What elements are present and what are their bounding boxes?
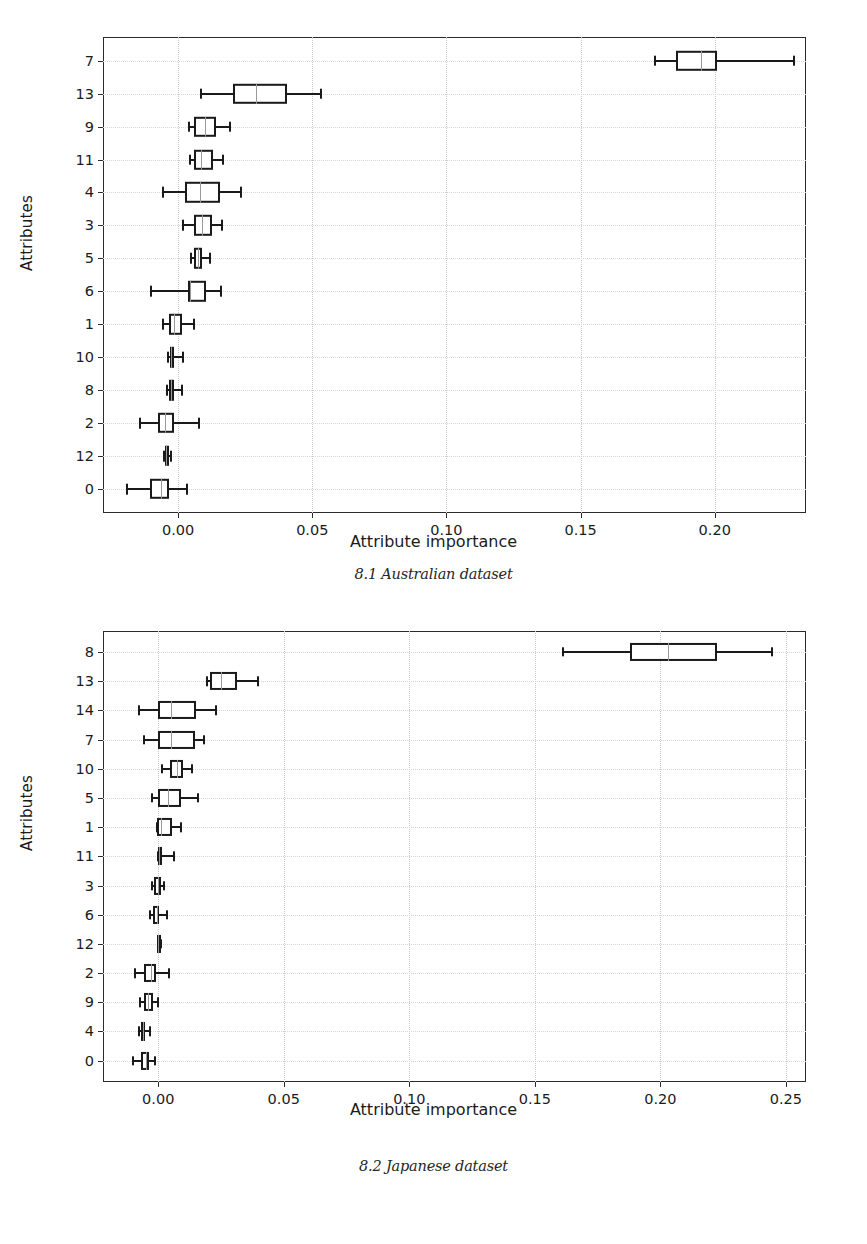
y-axis-tick	[98, 769, 103, 770]
y-axis-tick-label: 7	[85, 53, 94, 69]
whisker-low	[562, 651, 630, 653]
whisker-cap-low	[139, 418, 141, 429]
y-axis-tick-label: 2	[85, 965, 94, 981]
whisker-high	[174, 422, 198, 424]
median-line	[166, 446, 167, 466]
gridline-horizontal	[103, 1031, 806, 1032]
median-line	[171, 701, 172, 719]
whisker-high	[206, 290, 219, 292]
median-line	[668, 643, 669, 661]
whisker-low	[200, 93, 234, 95]
whisker-cap-high	[197, 793, 199, 802]
whisker-cap-high	[203, 735, 205, 744]
y-axis-tick-label: 5	[85, 250, 94, 266]
median-line	[158, 876, 159, 894]
y-axis-tick-label: 13	[76, 673, 94, 689]
figure-caption: 8.1 Australian dataset	[0, 566, 867, 582]
y-axis-tick	[98, 973, 103, 974]
gridline-horizontal	[103, 456, 806, 457]
median-line	[148, 993, 149, 1011]
median-line	[190, 281, 191, 301]
gridline-vertical	[178, 37, 179, 513]
median-line	[174, 314, 175, 334]
whisker-low	[143, 739, 158, 741]
whisker-cap-high	[240, 187, 242, 198]
y-axis-tick	[98, 160, 103, 161]
whisker-high	[169, 488, 186, 490]
y-axis-tick	[98, 886, 103, 887]
y-axis-tick	[98, 681, 103, 682]
y-axis-tick	[98, 61, 103, 62]
box	[158, 413, 174, 433]
median-line	[143, 1022, 144, 1040]
box	[185, 182, 220, 202]
y-axis-tick-label: 4	[85, 1023, 94, 1039]
whisker-cap-high	[173, 852, 175, 861]
y-axis-tick	[98, 827, 103, 828]
gridline-horizontal	[103, 973, 806, 974]
whisker-cap-low	[189, 154, 191, 165]
whisker-cap-high	[191, 764, 193, 773]
y-axis-tick	[98, 489, 103, 490]
gridline-vertical	[446, 37, 447, 513]
whisker-cap-low	[167, 352, 169, 363]
median-line	[171, 347, 172, 367]
whisker-high	[287, 93, 321, 95]
y-axis-tick	[98, 1002, 103, 1003]
y-axis-tick-label: 4	[85, 184, 94, 200]
x-axis-label: Attribute importance	[0, 1100, 867, 1119]
median-line	[168, 789, 169, 807]
axes-frame	[103, 37, 806, 513]
y-axis-tick-label: 9	[85, 119, 94, 135]
y-axis-tick	[98, 127, 103, 128]
y-axis-tick-label: 11	[76, 848, 94, 864]
whisker-cap-high	[257, 677, 259, 686]
whisker-cap-high	[168, 968, 170, 977]
y-axis-tick-label: 9	[85, 994, 94, 1010]
whisker-cap-low	[162, 319, 164, 330]
gridline-horizontal	[103, 390, 806, 391]
median-line	[171, 731, 172, 749]
whisker-cap-high	[180, 822, 182, 831]
whisker-high	[174, 389, 181, 391]
x-axis-tick	[581, 513, 582, 518]
figure-page: Attributes 0.000.050.100.150.20713911435…	[0, 0, 867, 1244]
box	[158, 701, 196, 719]
x-axis-tick	[312, 513, 313, 518]
whisker-high	[717, 651, 771, 653]
whisker-cap-high	[221, 220, 223, 231]
y-axis-tick-label: 8	[85, 382, 94, 398]
y-axis-tick-label: 10	[76, 349, 94, 365]
x-axis-tick	[446, 513, 447, 518]
median-line	[157, 906, 158, 924]
whisker-cap-high	[181, 385, 183, 396]
whisker-cap-low	[143, 735, 145, 744]
box	[150, 479, 169, 499]
box	[630, 643, 717, 661]
y-axis-tick	[98, 856, 103, 857]
whisker-cap-high	[209, 253, 211, 264]
median-line	[161, 479, 162, 499]
y-axis-tick	[98, 324, 103, 325]
box	[158, 789, 181, 807]
y-axis-tick-label: 3	[85, 878, 94, 894]
whisker-low	[654, 60, 675, 62]
y-axis-tick	[98, 258, 103, 259]
gridline-horizontal	[103, 827, 806, 828]
whisker-cap-high	[229, 121, 231, 132]
median-line	[171, 380, 172, 400]
whisker-cap-high	[215, 706, 217, 715]
whisker-cap-high	[198, 418, 200, 429]
whisker-high	[162, 855, 173, 857]
y-axis-tick	[98, 1061, 103, 1062]
gridline-horizontal	[103, 856, 806, 857]
gridline-horizontal	[103, 740, 806, 741]
whisker-high	[237, 680, 257, 682]
y-axis-tick-label: 12	[76, 936, 94, 952]
whisker-cap-high	[157, 998, 159, 1007]
whisker-high	[212, 224, 221, 226]
whisker-low	[138, 709, 158, 711]
median-line	[200, 182, 201, 202]
y-axis-tick-label: 6	[85, 283, 94, 299]
y-axis-tick-label: 5	[85, 790, 94, 806]
